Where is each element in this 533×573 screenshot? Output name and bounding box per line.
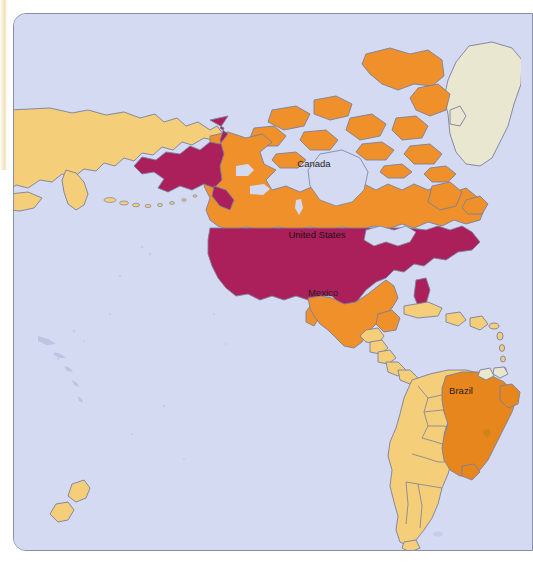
label-canada: Canada bbox=[297, 158, 331, 169]
tierra-del-fuego bbox=[402, 540, 420, 551]
map-frame[interactable]: Canada United States Mexico Brazil bbox=[13, 13, 533, 551]
page-edge-strip bbox=[0, 0, 7, 170]
label-mexico: Mexico bbox=[308, 287, 338, 298]
label-brazil: Brazil bbox=[449, 385, 473, 396]
great-lakes bbox=[364, 226, 416, 246]
falkland-islands bbox=[433, 531, 443, 536]
label-united-states: United States bbox=[288, 229, 345, 240]
world-map-graphic[interactable]: Canada United States Mexico Brazil bbox=[14, 14, 521, 551]
